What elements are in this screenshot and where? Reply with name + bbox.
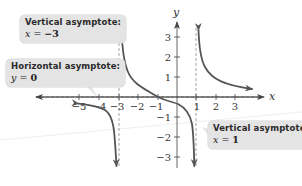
callout-title: Vertical asymptote: bbox=[25, 17, 121, 28]
x-axis-label: x bbox=[269, 90, 276, 103]
svg-text:−3: −3 bbox=[156, 152, 171, 163]
callout-equation: x = 1 bbox=[213, 134, 302, 146]
svg-text:2: 2 bbox=[165, 52, 171, 63]
svg-text:3: 3 bbox=[165, 32, 171, 43]
callout-horizontal-asymptote: Horizontal asymptote: y = 0 bbox=[6, 59, 125, 87]
svg-text:−3: −3 bbox=[110, 101, 125, 112]
y-axis-label: y bbox=[172, 6, 180, 19]
svg-text:1: 1 bbox=[165, 72, 171, 83]
svg-text:−2: −2 bbox=[130, 101, 145, 112]
curve-left-branch bbox=[79, 104, 117, 166]
svg-text:−5: −5 bbox=[72, 101, 87, 112]
curve-right-branch bbox=[199, 30, 253, 89]
svg-text:2: 2 bbox=[213, 101, 219, 112]
callout-vertical-asymptote-right: Vertical asymptote: x = 1 bbox=[208, 121, 302, 149]
svg-text:3: 3 bbox=[232, 101, 238, 112]
callout-title: Vertical asymptote: bbox=[213, 123, 302, 134]
callout-equation: y = 0 bbox=[11, 72, 120, 84]
callout-title: Horizontal asymptote: bbox=[11, 61, 120, 72]
svg-text:−1: −1 bbox=[149, 101, 164, 112]
callout-equation: x = −3 bbox=[25, 28, 121, 40]
svg-text:1: 1 bbox=[194, 101, 200, 112]
svg-text:−1: −1 bbox=[156, 112, 171, 123]
svg-text:−2: −2 bbox=[156, 132, 171, 143]
callout-vertical-asymptote-left: Vertical asymptote: x = −3 bbox=[20, 15, 126, 43]
